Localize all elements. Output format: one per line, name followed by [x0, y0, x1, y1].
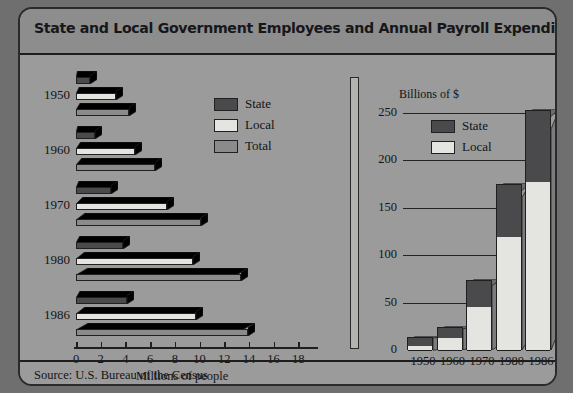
y-tick-label-0: 0 — [367, 342, 397, 357]
bar-side-face — [123, 236, 130, 249]
x-tick — [150, 342, 152, 347]
payroll-chart: Billions of $ 250200150100500 1950196019… — [359, 55, 557, 386]
bar-front-face — [76, 93, 116, 100]
bar-side-face — [196, 307, 203, 320]
x-tick — [249, 342, 251, 347]
x-tick — [125, 342, 127, 347]
bar-side-face — [551, 110, 557, 350]
bar-segment-local — [467, 307, 491, 351]
legend-swatch-local — [431, 141, 455, 154]
x-tick — [298, 342, 300, 347]
bar-side-face — [135, 142, 142, 155]
bar-segment-local — [438, 338, 462, 351]
y-tick-label-150: 150 — [367, 200, 397, 215]
bar-segment-state — [467, 281, 491, 308]
bar-front-face — [407, 337, 433, 350]
x-tick — [200, 342, 202, 347]
legend-label-local: Local — [462, 139, 492, 155]
bar-front-face — [496, 184, 522, 350]
employees-bar-1950-total — [76, 103, 136, 116]
source-note: Source: U.S. Bureau of the Census — [34, 368, 208, 383]
bar-segment-local — [408, 346, 432, 351]
employees-chart: 19501960197019801986 024681012141618 Mil… — [20, 55, 340, 386]
employees-bar-1960-state — [76, 126, 102, 139]
bar-front-face — [76, 329, 248, 336]
employees-category-label-1986: 1986 — [26, 307, 70, 323]
bar-side-face — [95, 126, 102, 139]
employees-bar-1986-state — [76, 291, 134, 304]
y-tick-label-100: 100 — [367, 247, 397, 262]
y-tick-label-200: 200 — [367, 152, 397, 167]
bar-front-face — [76, 164, 155, 171]
bar-front-face — [76, 148, 135, 155]
bar-front-face — [76, 258, 193, 265]
y-tick-label-250: 250 — [367, 105, 397, 120]
bar-front-face — [76, 77, 90, 84]
legend-label-state: State — [245, 96, 271, 112]
bar-front-face — [76, 274, 241, 281]
bar-front-face — [76, 297, 127, 304]
legend-label-local: Local — [245, 117, 275, 133]
chart-card: State and Local Government Employees and… — [18, 7, 557, 386]
employees-bar-1950-state — [76, 71, 97, 84]
employees-bar-1980-total — [76, 268, 248, 281]
x-tick — [101, 342, 103, 347]
legend-swatch-local — [214, 119, 238, 132]
employees-category-label-1980: 1980 — [26, 252, 70, 268]
bar-segment-state — [438, 328, 462, 337]
x-tick — [76, 342, 78, 347]
bar-segment-state — [526, 111, 550, 182]
bar-side-face — [201, 213, 208, 226]
bar-side-face — [155, 158, 162, 171]
employees-bar-1960-local — [76, 142, 142, 155]
page-title: State and Local Government Employees and… — [34, 20, 557, 36]
x-tick — [274, 342, 276, 347]
x-tick-label-1986: 1986 — [522, 354, 557, 369]
bar-front-face — [76, 187, 111, 194]
employees-bar-1986-local — [76, 307, 203, 320]
chart-divider — [350, 77, 359, 349]
legend-label-total: Total — [245, 138, 272, 154]
y-tick-label-50: 50 — [367, 295, 397, 310]
employees-bar-1980-local — [76, 252, 200, 265]
bar-front-face — [76, 203, 167, 210]
bar-segment-state — [408, 338, 432, 347]
bar-segment-state — [497, 185, 521, 237]
legend-swatch-state — [431, 120, 455, 133]
bar-front-face — [76, 132, 95, 139]
legend-label-state: State — [462, 118, 488, 134]
bar-front-face — [525, 110, 551, 350]
bar-front-face — [437, 327, 463, 350]
bar-side-face — [129, 103, 136, 116]
employees-bar-1960-total — [76, 158, 162, 171]
employees-bar-1986-total — [76, 323, 255, 336]
bar-front-face — [76, 219, 201, 226]
bar-side-face — [111, 181, 118, 194]
bar-side-face — [127, 291, 134, 304]
bar-side-face — [90, 71, 97, 84]
employees-bar-1970-state — [76, 181, 118, 194]
bar-front-face — [466, 280, 492, 350]
bar-segment-local — [526, 182, 550, 351]
bar-front-face — [76, 109, 129, 116]
plot-area: 19501960197019801986 024681012141618 Mil… — [20, 55, 555, 386]
employees-bar-1980-state — [76, 236, 130, 249]
employees-category-label-1970: 1970 — [26, 197, 70, 213]
bar-front-face — [76, 313, 196, 320]
bar-side-face — [167, 197, 174, 210]
employees-bar-1970-total — [76, 213, 208, 226]
bar-side-face — [193, 252, 200, 265]
screenshot-root: State and Local Government Employees and… — [0, 0, 573, 393]
bar-side-face — [116, 87, 123, 100]
employees-x-axis-line — [74, 347, 318, 349]
employees-bar-1970-local — [76, 197, 174, 210]
bar-front-face — [76, 242, 123, 249]
x-tick — [224, 342, 226, 347]
legend-swatch-total — [214, 140, 238, 153]
legend-swatch-state — [214, 98, 238, 111]
payroll-y-axis-title: Billions of $ — [399, 87, 459, 102]
employees-category-label-1950: 1950 — [26, 87, 70, 103]
footer-divider — [20, 360, 555, 362]
bar-side-face — [248, 323, 255, 336]
x-tick — [175, 342, 177, 347]
